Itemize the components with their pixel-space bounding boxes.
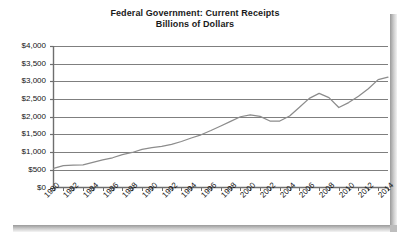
y-axis-tick-label: $1,000 [4, 148, 46, 156]
chart-figure: Federal Government: Current Receipts Bil… [0, 0, 406, 240]
y-axis-tick-label: $3,000 [4, 77, 46, 85]
gridlines [54, 47, 389, 171]
data-series-line [54, 77, 389, 168]
y-axis-tick-label: $0 [4, 184, 46, 192]
y-axis-tick-label: $500 [4, 166, 46, 174]
y-axis-tick-label: $1,500 [4, 130, 46, 138]
y-axis-tick-label: $2,500 [4, 95, 46, 103]
y-axis-tick-label: $3,500 [4, 60, 46, 68]
chart-plot-area [0, 0, 406, 240]
y-axis-tick-label: $4,000 [4, 42, 46, 50]
y-axis-tick-label: $2,000 [4, 113, 46, 121]
